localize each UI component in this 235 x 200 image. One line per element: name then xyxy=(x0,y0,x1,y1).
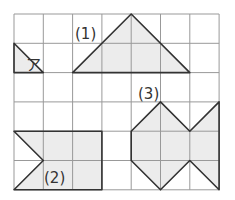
label-3: (3) xyxy=(138,85,159,103)
label-1: (1) xyxy=(75,25,96,43)
grid-figure: ア (1) (2) (3) xyxy=(0,0,235,200)
label-2: (2) xyxy=(44,169,65,187)
label-a: ア xyxy=(26,56,41,74)
